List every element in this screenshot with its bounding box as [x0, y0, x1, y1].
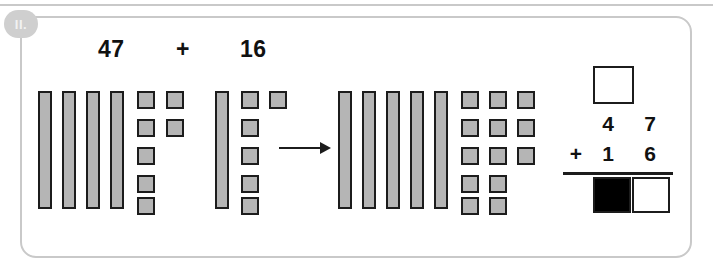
- addend-1-ones-digit: 7: [639, 112, 661, 136]
- transform-arrow-head: [320, 142, 331, 154]
- ones-unit: [461, 175, 479, 193]
- column-operator: +: [565, 142, 587, 166]
- ones-unit: [461, 147, 479, 165]
- ones-unit: [166, 119, 184, 137]
- addend-2-tens-digit: 1: [597, 142, 619, 166]
- tens-rod: [215, 91, 229, 209]
- addend-2-ones-digit: 6: [639, 142, 661, 166]
- tens-rod: [86, 91, 100, 209]
- tens-rod: [110, 91, 124, 209]
- ones-unit: [461, 91, 479, 109]
- ones-unit: [137, 91, 155, 109]
- tens-rod: [362, 91, 376, 209]
- equation-operator: +: [176, 36, 190, 63]
- ones-unit: [517, 119, 535, 137]
- ones-unit: [137, 197, 155, 215]
- ones-unit: [489, 147, 507, 165]
- ones-unit: [241, 147, 259, 165]
- ones-unit: [166, 91, 184, 109]
- addend-1-tens-digit: 4: [597, 112, 619, 136]
- ones-unit: [517, 147, 535, 165]
- tens-rod: [62, 91, 76, 209]
- tens-rod: [434, 91, 448, 209]
- tens-rod: [410, 91, 424, 209]
- ones-unit: [241, 175, 259, 193]
- equation-addend-2: 16: [240, 36, 267, 63]
- ones-unit: [137, 147, 155, 165]
- answer-ones-box[interactable]: [632, 177, 670, 213]
- ones-unit: [241, 91, 259, 109]
- answer-tens-box[interactable]: [593, 177, 631, 213]
- tens-rod: [338, 91, 352, 209]
- transform-arrow-line: [279, 147, 323, 149]
- sum-separator-rule: [563, 172, 673, 175]
- ones-unit: [489, 119, 507, 137]
- ones-unit: [461, 197, 479, 215]
- page-top-rule: [0, 4, 713, 6]
- ones-unit: [461, 119, 479, 137]
- ones-unit: [137, 119, 155, 137]
- exercise-number-badge: II.: [4, 10, 38, 38]
- tens-rod: [38, 91, 52, 209]
- ones-unit: [241, 197, 259, 215]
- ones-unit: [489, 91, 507, 109]
- ones-unit: [269, 91, 287, 109]
- ones-unit: [517, 91, 535, 109]
- ones-unit: [489, 175, 507, 193]
- equation-addend-1: 47: [98, 36, 125, 63]
- tens-rod: [386, 91, 400, 209]
- ones-unit: [137, 175, 155, 193]
- ones-unit: [241, 119, 259, 137]
- ones-unit: [489, 197, 507, 215]
- carry-input-box[interactable]: [593, 66, 634, 104]
